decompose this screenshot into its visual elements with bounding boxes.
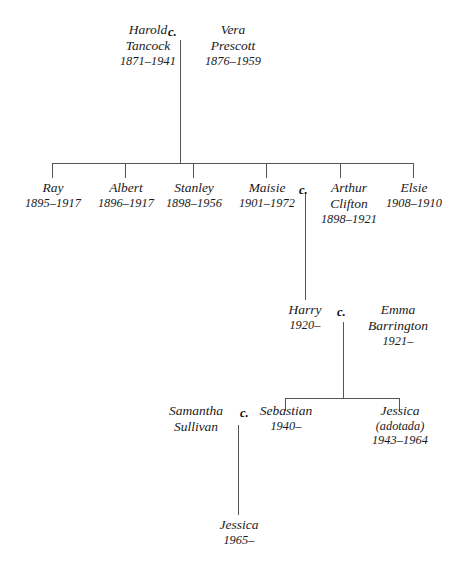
person-name: Harry	[272, 302, 338, 318]
person-name: Stanley	[154, 180, 234, 196]
family-tree-diagram: Harold Tancock 1871–1941 c. Vera Prescot…	[0, 0, 463, 580]
marriage-mark-maisie-arthur: c.	[299, 183, 308, 198]
person-harry[interactable]: Harry 1920–	[272, 302, 338, 332]
person-dates: 1876–1959	[193, 54, 273, 69]
person-surname: Tancock	[108, 38, 188, 54]
marriage-mark-harold-vera: c.	[168, 25, 177, 40]
person-name: Samantha	[154, 403, 238, 419]
person-emma-barrington[interactable]: Emma Barrington 1921–	[352, 302, 444, 348]
person-dates: 1895–1917	[13, 196, 93, 211]
person-dates: 1901–1972	[227, 196, 307, 211]
person-ray[interactable]: Ray 1895–1917	[13, 180, 93, 210]
person-dates: 1871–1941	[108, 54, 188, 69]
person-dates: 1940–	[255, 419, 317, 434]
person-name: Sebastian	[255, 403, 317, 419]
person-name: Ray	[13, 180, 93, 196]
person-surname: Barrington	[352, 318, 444, 334]
person-sebastian[interactable]: Sebastian 1940–	[255, 403, 317, 433]
person-dates: 1898–1921	[318, 212, 380, 227]
person-vera-prescott[interactable]: Vera Prescott 1876–1959	[193, 22, 273, 68]
person-dates: 1898–1956	[154, 196, 234, 211]
person-dates: 1921–	[352, 334, 444, 349]
person-name: Vera	[193, 22, 273, 38]
person-stanley[interactable]: Stanley 1898–1956	[154, 180, 234, 210]
person-dates: 1965–	[206, 533, 272, 548]
person-jessica-adopted[interactable]: Jessica (adotada) 1943–1964	[355, 403, 445, 448]
connector-lines	[0, 0, 463, 580]
marriage-mark-harry-emma: c.	[337, 305, 346, 320]
person-jessica-1965[interactable]: Jessica 1965–	[206, 517, 272, 547]
person-name: Jessica	[206, 517, 272, 533]
person-name: Elsie	[374, 180, 454, 196]
person-name: Arthur	[318, 180, 380, 196]
person-name: Emma	[352, 302, 444, 318]
person-samantha-sullivan[interactable]: Samantha Sullivan	[154, 403, 238, 435]
person-name: Maisie	[227, 180, 307, 196]
person-dates: 1943–1964	[355, 433, 445, 448]
person-maisie[interactable]: Maisie 1901–1972	[227, 180, 307, 210]
person-name: Jessica	[355, 403, 445, 419]
person-note: (adotada)	[355, 419, 445, 434]
person-elsie[interactable]: Elsie 1908–1910	[374, 180, 454, 210]
person-dates: 1920–	[272, 318, 338, 333]
marriage-mark-samantha-sebastian: c.	[240, 406, 249, 421]
person-surname: Clifton	[318, 196, 380, 212]
person-dates: 1908–1910	[374, 196, 454, 211]
person-surname: Prescott	[193, 38, 273, 54]
person-arthur-clifton[interactable]: Arthur Clifton 1898–1921	[318, 180, 380, 226]
person-surname: Sullivan	[154, 419, 238, 435]
